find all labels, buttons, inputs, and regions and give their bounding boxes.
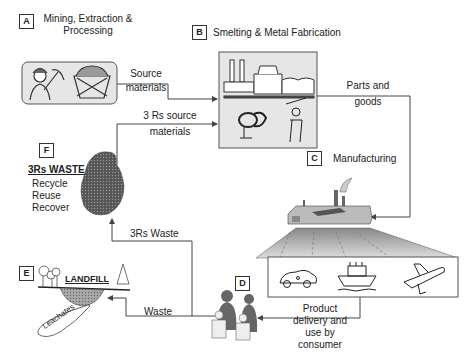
product-delivery-label: Product delivery and use by consumer	[285, 303, 355, 351]
waste-label: Waste	[144, 306, 172, 318]
stage-c-badge: C	[307, 151, 322, 166]
stage-f-list: Recycle Reuse Recover	[32, 178, 69, 214]
stage-a-title-line2: Processing	[38, 25, 138, 37]
stage-c-title: Manufacturing	[333, 153, 396, 165]
parts-goods-label: Parts and goods	[340, 80, 396, 108]
source-materials-line2: materials	[124, 82, 168, 94]
product-line1: Product	[285, 303, 355, 315]
stage-f-title: 3Rs WASTE	[28, 164, 85, 176]
product-line2: delivery and	[285, 315, 355, 327]
smelting-panel	[219, 52, 317, 148]
stage-a-title: Mining, Extraction & Processing	[38, 13, 138, 37]
source-materials-line1: Source	[124, 68, 168, 80]
reuse-item: Reuse	[32, 190, 69, 202]
stage-a-title-line1: Mining, Extraction &	[38, 13, 138, 25]
stage-f-badge: F	[39, 143, 54, 158]
stage-b-badge: B	[192, 25, 207, 40]
rs-source-label: 3 Rs source materials	[130, 110, 210, 138]
recover-item: Recover	[32, 202, 69, 214]
product-line3: use by	[285, 327, 355, 339]
stage-b-title: Smelting & Metal Fabrication	[213, 27, 341, 39]
stage-a-badge: A	[19, 14, 34, 29]
waste-pile	[81, 152, 124, 215]
parts-goods-line2: goods	[340, 96, 396, 108]
landfill-title: LANDFILL	[65, 273, 109, 285]
rs-source-line2: materials	[130, 126, 210, 138]
rs-waste-label: 3Rs Waste	[130, 228, 179, 240]
parts-goods-line1: Parts and	[340, 80, 396, 92]
product-line4: consumer	[285, 339, 355, 351]
stage-e-badge: E	[19, 266, 34, 281]
source-materials-label: Source materials	[124, 68, 168, 94]
stage-d-badge: D	[235, 276, 250, 291]
consumers-icon	[212, 290, 257, 340]
recycle-item: Recycle	[32, 178, 69, 190]
manufacturing-plant	[256, 178, 458, 297]
rs-source-line1: 3 Rs source	[130, 110, 210, 122]
mining-panel	[22, 62, 117, 104]
